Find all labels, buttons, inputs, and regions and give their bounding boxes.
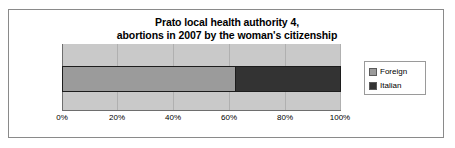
legend-item-italian: Italian: [369, 79, 425, 92]
x-tick-label-100: 100%: [330, 113, 350, 122]
legend-label-italian: Italian: [380, 81, 401, 90]
chart-title-line-2: abortions in 2007 by the woman's citizen…: [9, 29, 445, 42]
x-axis-tick-labels: 0% 20% 40% 60% 80% 100%: [62, 113, 341, 127]
x-tick-label-0: 0%: [56, 113, 68, 122]
chart-frame: Prato local health authority 4, abortion…: [8, 9, 444, 138]
legend-swatch-icon-foreign: [369, 68, 377, 76]
x-tick-label-80: 80%: [277, 113, 293, 122]
legend-swatch-icon-italian: [369, 82, 377, 90]
x-tick-label-60: 60%: [221, 113, 237, 122]
x-tick-label-40: 40%: [165, 113, 181, 122]
legend-label-foreign: Foreign: [380, 67, 407, 76]
chart-title: Prato local health authority 4, abortion…: [9, 16, 445, 42]
chart-legend: Foreign Italian: [364, 61, 426, 95]
x-tick-label-20: 20%: [109, 113, 125, 122]
stacked-bar: [62, 66, 341, 92]
chart-title-line-1: Prato local health authority 4,: [9, 16, 445, 29]
bar-segment-foreign: [62, 66, 235, 92]
legend-item-foreign: Foreign: [369, 65, 425, 78]
bar-segment-italian: [235, 66, 341, 92]
plot-area: [62, 44, 341, 111]
x-axis-line: [62, 110, 341, 111]
